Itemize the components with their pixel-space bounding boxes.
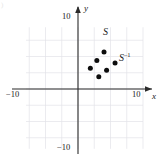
x-axis-min-tick-label: −10: [6, 90, 19, 99]
data-point: [88, 66, 93, 71]
graph-svg: [0, 0, 164, 160]
y-axis-label: y: [84, 4, 88, 13]
y-axis-min-tick-label: −10: [57, 143, 70, 152]
y-axis-max-tick-label: 10: [62, 12, 71, 21]
data-point: [96, 74, 101, 79]
coordinate-plane-figure: ) 10 −10 10 −10 y x S S–1: [0, 0, 164, 160]
data-point: [104, 68, 109, 73]
x-axis-max-tick-label: 10: [132, 90, 141, 99]
set-s-label: S: [103, 27, 108, 37]
data-point: [113, 61, 118, 66]
data-point: [94, 58, 99, 63]
set-s-inverse-exponent: –1: [124, 51, 131, 58]
x-axis-arrow-icon: [145, 86, 152, 92]
x-axis-label: x: [152, 92, 156, 101]
grid-lines: [26, 27, 143, 149]
set-s-inverse-label: S–1: [119, 52, 131, 63]
y-axis-arrow-icon: [75, 6, 81, 13]
data-points: [88, 49, 118, 79]
data-point: [102, 49, 107, 54]
